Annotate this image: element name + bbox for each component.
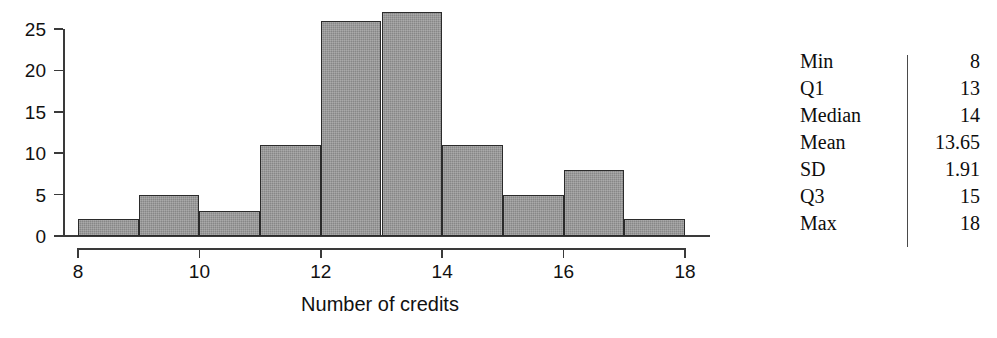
- stats-row: Min8: [800, 48, 980, 75]
- x-axis-title: Number of credits: [0, 293, 760, 316]
- histogram-bar: [442, 145, 503, 236]
- x-tick-label: 12: [296, 262, 346, 281]
- histogram-bar: [260, 145, 321, 236]
- summary-statistics-table: Min8Q113Median14Mean13.65SD1.91Q315Max18: [800, 48, 980, 237]
- stats-row: Max18: [800, 210, 980, 237]
- histogram-bar: [139, 195, 200, 236]
- stats-row: Mean13.65: [800, 129, 980, 156]
- stat-label: Q3: [800, 183, 896, 210]
- x-tick-mark: [320, 248, 322, 258]
- stats-row: Median14: [800, 102, 980, 129]
- stats-table-divider: [907, 55, 908, 247]
- histogram-bar: [564, 170, 625, 236]
- stat-value: 14: [896, 102, 980, 129]
- stats-table-body: Min8Q113Median14Mean13.65SD1.91Q315Max18: [800, 48, 980, 237]
- x-tick-label: 10: [174, 262, 224, 281]
- histogram-bar: [321, 21, 382, 236]
- x-tick-label: 16: [539, 262, 589, 281]
- stat-value: 13: [896, 75, 980, 102]
- y-tick-label: 25: [6, 20, 46, 39]
- stat-value: 13.65: [896, 129, 980, 156]
- stat-value: 8: [896, 48, 980, 75]
- x-tick-mark: [441, 248, 443, 258]
- x-tick-label: 8: [53, 262, 103, 281]
- histogram-bar: [382, 12, 443, 236]
- y-tick-label: 10: [6, 144, 46, 163]
- stats-row: Q315: [800, 183, 980, 210]
- y-tick-mark: [54, 28, 63, 30]
- stat-label: Median: [800, 102, 896, 129]
- y-axis-line: [63, 29, 65, 236]
- y-tick-label: 15: [6, 103, 46, 122]
- stat-value: 1.91: [896, 156, 980, 183]
- y-tick-label: 5: [6, 186, 46, 205]
- stat-value: 15: [896, 183, 980, 210]
- stats-row: Q113: [800, 75, 980, 102]
- x-tick-label: 18: [660, 262, 710, 281]
- histogram-bar: [503, 195, 564, 236]
- x-tick-mark: [77, 248, 79, 258]
- y-tick-mark: [54, 152, 63, 154]
- y-tick-mark: [54, 111, 63, 113]
- x-tick-mark: [563, 248, 565, 258]
- histogram-bar: [78, 219, 139, 236]
- histogram-figure: 051015202581012141618 Number of credits …: [0, 0, 997, 338]
- y-tick-mark: [54, 194, 63, 196]
- stat-label: Min: [800, 48, 896, 75]
- y-tick-mark: [54, 70, 63, 72]
- histogram-bar: [199, 211, 260, 236]
- y-tick-label: 0: [6, 227, 46, 246]
- stats-row: SD1.91: [800, 156, 980, 183]
- stat-label: SD: [800, 156, 896, 183]
- x-tick-mark: [199, 248, 201, 258]
- y-tick-label: 20: [6, 61, 46, 80]
- y-tick-mark: [54, 235, 63, 237]
- stat-value: 18: [896, 210, 980, 237]
- stat-label: Q1: [800, 75, 896, 102]
- x-tick-mark: [684, 248, 686, 258]
- histogram-plot-area: 051015202581012141618: [0, 0, 760, 338]
- stats-table-element: Min8Q113Median14Mean13.65SD1.91Q315Max18: [800, 48, 980, 237]
- stat-label: Max: [800, 210, 896, 237]
- x-tick-label: 14: [417, 262, 467, 281]
- stat-label: Mean: [800, 129, 896, 156]
- histogram-bar: [624, 219, 685, 236]
- x-axis-line: [78, 248, 685, 250]
